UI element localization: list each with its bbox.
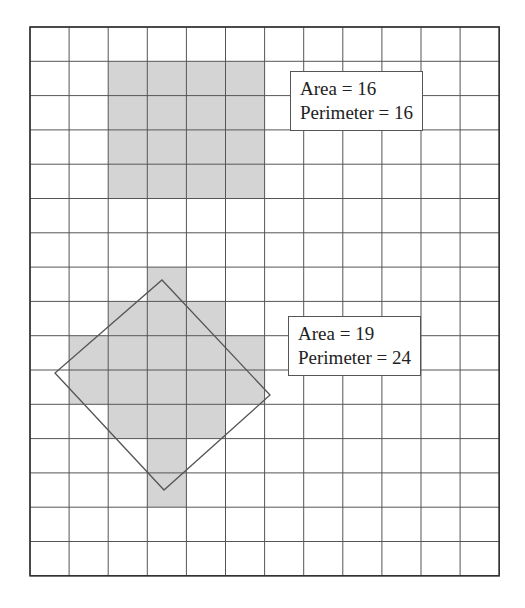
square-shaded-cell [108,164,147,198]
square-shaded-cell [186,130,225,164]
square-shaded-cell [147,96,186,130]
cross-shaded-cell [186,404,225,438]
cross-shaded-cell [147,301,186,335]
cross-shaded-cell [147,404,186,438]
cross-perimeter-text: Perimeter = 24 [298,346,411,370]
cross-shaded-cell [147,439,186,473]
cross-shaded-cell [69,336,108,370]
square-shaded-cell [147,164,186,198]
square-shaded-cell [226,96,265,130]
cross-area-text: Area = 19 [298,322,411,346]
square-area-text: Area = 16 [300,77,413,101]
cross-shaded-cell [186,301,225,335]
square-shaded-cell [108,61,147,95]
square-shaded-cell [108,130,147,164]
square-perimeter-text: Perimeter = 16 [300,101,413,125]
grid-diagram [0,0,525,608]
square-shaded-cell [186,96,225,130]
cross-shaded-cell [186,370,225,404]
cross-shaded-cell [147,336,186,370]
cross-shaded-cell [108,404,147,438]
square-shaded-cell [108,96,147,130]
cross-shaded-cell [108,336,147,370]
cross-label-box: Area = 19 Perimeter = 24 [288,316,421,376]
square-shaded-cell [226,130,265,164]
square-shaded-cell [186,164,225,198]
square-shaded-cell [186,61,225,95]
cross-shaded-cell [69,370,108,404]
square-shaded-cell [226,164,265,198]
cross-shaded-cell [108,370,147,404]
square-shaded-cell [147,61,186,95]
cross-shaded-cell [108,301,147,335]
cross-shaded-cell [226,336,265,370]
cross-shaded-cell [226,370,265,404]
square-label-box: Area = 16 Perimeter = 16 [290,71,423,131]
cross-shaded-cell [147,370,186,404]
grid-lines [30,27,499,576]
square-shaded-cell [147,130,186,164]
square-shaded-cell [226,61,265,95]
